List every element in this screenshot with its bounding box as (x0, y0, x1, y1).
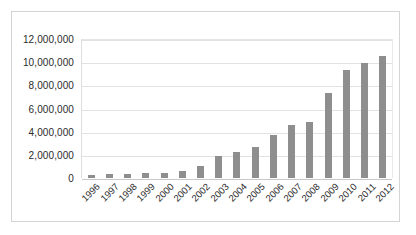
y-axis-tick-label: 4,000,000 (29, 126, 74, 137)
bar-slot (191, 40, 209, 178)
bar-slot (337, 40, 355, 178)
bar-slot (173, 40, 191, 178)
bar[interactable] (361, 63, 368, 178)
x-axis-slot: 2007 (283, 179, 301, 223)
bar[interactable] (197, 166, 204, 178)
y-axis-tick-label: 10,000,000 (23, 57, 74, 68)
bar-slot (246, 40, 264, 178)
bar[interactable] (161, 173, 168, 178)
bar[interactable] (233, 152, 240, 178)
x-axis-slot: 2001 (173, 179, 191, 223)
x-axis-slot: 1998 (118, 179, 136, 223)
bar[interactable] (142, 173, 149, 178)
x-axis-slot: 2004 (228, 179, 246, 223)
x-axis-slot: 2002 (191, 179, 209, 223)
x-axis-slot: 2006 (265, 179, 283, 223)
bar-slot (319, 40, 337, 178)
bar[interactable] (252, 147, 259, 178)
bar-slot (82, 40, 100, 178)
bar[interactable] (215, 156, 222, 178)
x-axis-slot: 2011 (356, 179, 374, 223)
y-axis-tick-label: 8,000,000 (29, 80, 74, 91)
bar[interactable] (325, 93, 332, 178)
bar-slot (283, 40, 301, 178)
x-axis-tick-label: 2012 (373, 181, 396, 204)
bar[interactable] (88, 175, 95, 178)
bar-series (82, 40, 392, 178)
bar-slot (356, 40, 374, 178)
chart-container: 02,000,0004,000,0006,000,0008,000,00010,… (11, 11, 400, 222)
bar-slot (301, 40, 319, 178)
x-axis-slot: 1996 (81, 179, 99, 223)
x-axis-slot: 2010 (338, 179, 356, 223)
bar-slot (264, 40, 282, 178)
y-axis-tick-label: 12,000,000 (23, 34, 74, 45)
y-axis-labels: 02,000,0004,000,0006,000,0008,000,00010,… (12, 12, 78, 223)
y-axis-tick-label: 6,000,000 (29, 103, 74, 114)
x-axis-slot: 2009 (320, 179, 338, 223)
bar[interactable] (106, 174, 113, 178)
bar-slot (137, 40, 155, 178)
plot-area (81, 39, 393, 178)
bar-slot (155, 40, 173, 178)
bar[interactable] (288, 125, 295, 178)
x-axis-slot: 1999 (136, 179, 154, 223)
x-axis-slot: 2005 (246, 179, 264, 223)
x-axis-slot: 2000 (154, 179, 172, 223)
bar-slot (228, 40, 246, 178)
x-axis-slot: 2008 (301, 179, 319, 223)
y-axis-tick-label: 2,000,000 (29, 149, 74, 160)
x-axis-slot: 2012 (375, 179, 393, 223)
bar-slot (100, 40, 118, 178)
x-axis-slot: 1997 (99, 179, 117, 223)
bar[interactable] (343, 70, 350, 178)
y-axis-tick-label: 0 (68, 173, 74, 184)
bar-slot (118, 40, 136, 178)
bar[interactable] (306, 122, 313, 178)
bar[interactable] (124, 174, 131, 178)
bar-slot (210, 40, 228, 178)
bar[interactable] (270, 135, 277, 178)
x-axis-labels: 1996199719981999200020012002200320042005… (81, 179, 393, 223)
bar-slot (374, 40, 392, 178)
bar[interactable] (179, 171, 186, 178)
x-axis-slot: 2003 (210, 179, 228, 223)
bar[interactable] (379, 56, 386, 178)
